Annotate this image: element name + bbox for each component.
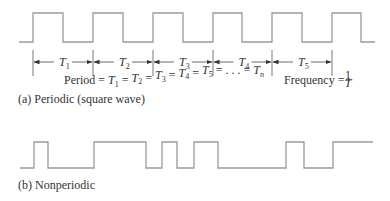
frequency-denominator: T: [345, 76, 353, 90]
caption-periodic: (a) Periodic (square wave): [18, 92, 145, 106]
waveform-diagram: T1T2T3T4T5 Period = T1 = T2 = T3 = T4 = …: [0, 0, 390, 201]
caption-nonperiodic: (b) Nonperiodic: [18, 178, 95, 192]
period-label: T5: [298, 55, 309, 71]
period-label: T2: [119, 55, 130, 71]
frequency-formula: Frequency = 1 T: [284, 68, 353, 91]
nonperiodic-wave: [20, 142, 373, 168]
periodic-square-wave: [19, 13, 375, 42]
frequency-label: Frequency =: [284, 73, 345, 87]
period-label: T1: [59, 55, 70, 71]
period-equation: Period = T1 = T2 = T3 = T4 = T5 = . . . …: [64, 63, 264, 89]
